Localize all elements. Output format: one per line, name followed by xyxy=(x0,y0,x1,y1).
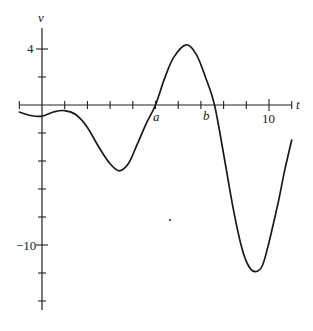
velocity-curve xyxy=(19,45,291,272)
y-tick-label-4: 4 xyxy=(27,41,34,56)
v-axis-label: v xyxy=(38,10,44,25)
y-tick-label-neg10: −10 xyxy=(16,238,36,253)
stray-speck xyxy=(169,219,171,221)
x-tick-label-10: 10 xyxy=(262,111,275,126)
axes xyxy=(20,28,292,310)
point-b-label: b xyxy=(203,108,210,123)
t-axis-label: t xyxy=(296,97,300,112)
chart: v t 4 −10 10 a b xyxy=(0,0,313,331)
point-a-label: a xyxy=(153,109,160,124)
